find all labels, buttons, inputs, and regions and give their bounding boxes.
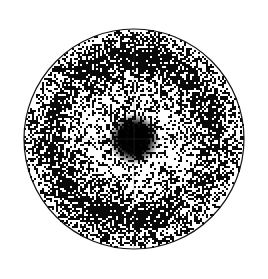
figure-root	[0, 0, 268, 279]
diffraction-pattern-canvas	[0, 0, 268, 279]
